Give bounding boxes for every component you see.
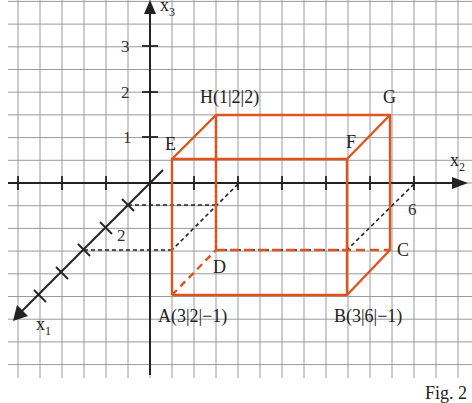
point-label-G: G [383,87,396,107]
point-label-D: D [213,257,226,277]
point-label-C: C [397,240,409,260]
face-EHGF [172,115,390,159]
point-label-B: B(3|6|−1) [334,306,402,327]
projection-diagonal-x2-2 [172,184,238,250]
x3-arrow-icon [144,0,156,14]
x3-tick-label-3: 3 [121,37,130,56]
labels: x3 x2 x1 3 2 1 2 6 E H(1|2|2) G F C D A(… [36,0,467,403]
x3-tick-label-2: 2 [121,83,130,102]
x3-tick-label-1: 1 [123,128,132,147]
point-label-H: H(1|2|2) [200,87,259,108]
x1-axis-label: x1 [36,314,51,338]
point-label-E: E [165,134,176,154]
figure-caption: Fig. 2 [425,383,467,403]
cuboid-coordinate-diagram: x3 x2 x1 3 2 1 2 6 E H(1|2|2) G F C D A(… [0,0,472,403]
x2-arrow-icon [452,177,468,189]
x3-axis-label: x3 [160,0,175,19]
x2-tick-label-6: 6 [408,200,417,219]
grid [8,0,472,378]
cuboid [172,115,390,295]
point-label-F: F [346,132,356,152]
x1-axis [20,170,163,313]
x1-tick-label-2: 2 [117,226,126,245]
point-label-A: A(3|2|−1) [158,306,227,327]
